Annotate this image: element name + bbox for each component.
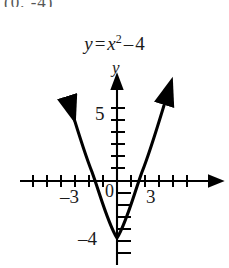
x-tick-label-3: 3 bbox=[146, 186, 156, 208]
y-axis bbox=[111, 88, 131, 265]
origin-label: 0 bbox=[105, 181, 114, 202]
parabola-figure: (0, -4) y=x2–4 y bbox=[0, 0, 229, 268]
y-tick-label-neg-4: –4 bbox=[78, 228, 97, 250]
y-tick-label-5: 5 bbox=[95, 103, 105, 125]
x-tick-label-neg-3: –3 bbox=[60, 186, 79, 208]
graph-canvas bbox=[0, 0, 229, 268]
x-axis bbox=[20, 175, 210, 187]
